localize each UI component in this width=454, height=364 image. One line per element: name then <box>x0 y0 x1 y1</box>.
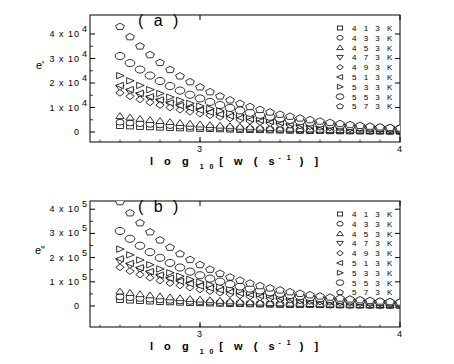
triangle-up-marker <box>116 113 124 119</box>
pentagon-marker <box>296 290 305 296</box>
diamond-marker <box>337 251 344 256</box>
triangle-up-marker <box>116 288 124 294</box>
diamond-marker <box>126 268 134 275</box>
triangle-right-marker <box>127 78 135 84</box>
legend-entry: 4 5 3 K <box>352 44 395 53</box>
x-axis-label: l o g 1 0 [ w ( s- 1 ) ] <box>150 154 322 170</box>
y-tick-label: 3 x 10 <box>49 228 80 238</box>
y-tick-exponent: 5 <box>82 223 88 233</box>
pentagon-marker <box>156 237 165 243</box>
legend-entry: 4 9 3 K <box>352 249 395 258</box>
triangle-up-marker <box>156 293 164 299</box>
circle-marker <box>126 120 134 126</box>
pentagon-marker <box>336 295 345 301</box>
diamond-marker <box>116 264 124 271</box>
triangle-up-marker <box>337 45 344 50</box>
circle-large-marker <box>336 94 344 100</box>
circle-large-marker <box>115 52 125 59</box>
circle-large-marker <box>185 91 195 98</box>
panel-b: 01 x 1052 x 1053 x 1054 x 10534e"l o g 1… <box>35 198 405 355</box>
y-tick-exponent: 4 <box>82 49 88 59</box>
pentagon-marker <box>356 122 365 128</box>
pentagon-marker <box>256 106 265 112</box>
circle-large-marker <box>235 107 245 114</box>
pentagon-marker <box>186 256 195 262</box>
diamond-marker <box>136 271 144 278</box>
triangle-up-marker <box>176 295 184 301</box>
pentagon-marker <box>206 266 215 272</box>
pentagon-marker <box>236 100 245 106</box>
legend-entry: 5 7 3 K <box>352 102 395 111</box>
y-tick-label: 3 x 10 <box>49 54 80 64</box>
panel-a: 01 x 1042 x 1043 x 1044 x 10434e'l o g 1… <box>36 12 405 170</box>
legend-entry: 5 7 3 K <box>352 288 395 297</box>
legend-entry: 4 1 3 K <box>352 210 395 219</box>
circle-large-marker <box>135 66 145 73</box>
triangle-up-marker <box>136 115 144 121</box>
pentagon-marker <box>366 123 375 129</box>
triangle-up-marker <box>186 120 194 126</box>
triangle-right-marker <box>157 90 165 96</box>
legend-entry: 4 3 3 K <box>352 220 395 229</box>
circle-large-marker <box>135 242 145 249</box>
circle-large-marker <box>195 272 205 279</box>
circle-large-marker <box>235 283 245 290</box>
pentagon-marker <box>376 298 385 304</box>
triangle-up-marker <box>186 296 194 302</box>
circle-large-marker <box>175 264 185 271</box>
pentagon-marker <box>236 277 245 283</box>
triangle-right-marker <box>147 87 155 93</box>
triangle-right-marker <box>127 252 135 258</box>
pentagon-marker <box>276 287 285 293</box>
panel-label: ( b ) <box>138 198 181 215</box>
pentagon-marker <box>306 116 315 122</box>
y-tick-label: 4 x 10 <box>49 29 80 39</box>
triangle-up-marker <box>126 114 134 120</box>
pentagon-marker <box>337 104 344 109</box>
pentagon-marker <box>246 280 255 286</box>
pentagon-marker <box>316 118 325 124</box>
legend-entry: 5 1 3 K <box>352 73 395 82</box>
legend-entry: 4 5 3 K <box>352 230 395 239</box>
triangle-up-marker <box>196 121 204 127</box>
pentagon-marker <box>196 261 205 267</box>
pentagon-marker <box>286 288 295 294</box>
pentagon-marker <box>136 43 145 49</box>
square-marker <box>337 212 342 216</box>
y-tick-label: 1 x 10 <box>49 277 80 287</box>
y-tick-exponent: 5 <box>82 199 88 209</box>
pentagon-marker <box>206 88 215 94</box>
pentagon-marker <box>286 113 295 119</box>
pentagon-marker <box>386 124 395 130</box>
triangle-right-marker <box>117 73 125 79</box>
circle-large-marker <box>205 275 215 282</box>
x-tick-label: 4 <box>397 329 403 339</box>
legend-entry: 5 5 3 K <box>352 279 395 288</box>
legend-entry: 5 3 3 K <box>352 269 395 278</box>
circle-marker <box>116 294 124 300</box>
pentagon-marker <box>126 209 135 215</box>
x-tick-label: 4 <box>397 144 403 154</box>
circle-large-marker <box>245 109 255 116</box>
triangle-up-marker <box>136 291 144 297</box>
pentagon-marker <box>226 274 235 280</box>
circle-large-marker <box>215 278 225 285</box>
triangle-up-marker <box>146 117 154 123</box>
circle-large-marker <box>175 87 185 94</box>
y-tick-label: 1 x 10 <box>49 103 80 113</box>
triangle-down-marker <box>337 55 344 60</box>
triangle-up-marker <box>176 120 184 126</box>
figure: 01 x 1042 x 1043 x 1044 x 10434e'l o g 1… <box>0 0 454 364</box>
pentagon-marker <box>337 290 344 295</box>
circle-large-marker <box>205 98 215 105</box>
legend-entry: 4 7 3 K <box>352 53 395 62</box>
pentagon-marker <box>316 293 325 299</box>
triangle-up-marker <box>166 294 174 300</box>
diamond-marker <box>136 96 144 103</box>
pentagon-marker <box>266 109 275 115</box>
pentagon-marker <box>116 23 125 29</box>
pentagon-marker <box>166 244 175 250</box>
diamond-marker <box>337 65 344 70</box>
y-tick-exponent: 4 <box>82 73 88 83</box>
pentagon-marker <box>386 298 395 304</box>
